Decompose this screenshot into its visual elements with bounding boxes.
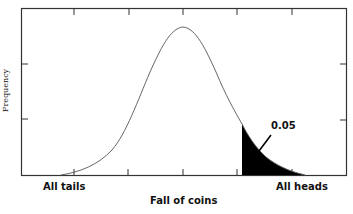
right-ticks (340, 64, 346, 120)
shaded-area-annotation: 0.05 (271, 120, 296, 131)
annotation-leader-line (259, 135, 271, 151)
x-axis-right-label: All heads (276, 181, 328, 192)
plot-frame (22, 9, 347, 176)
bell-curve (61, 27, 305, 175)
left-ticks (22, 64, 28, 119)
y-axis-title: Frequency (1, 69, 10, 112)
x-axis-left-label: All tails (43, 181, 85, 192)
shaded-tail-region (242, 124, 305, 175)
top-ticks (74, 9, 292, 15)
x-axis-title: Fall of coins (150, 195, 217, 206)
